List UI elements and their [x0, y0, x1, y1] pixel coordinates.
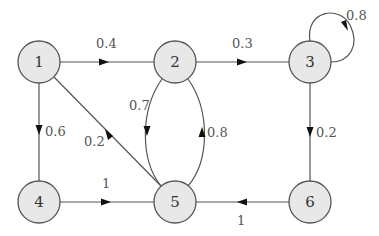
edge-label-3-3: 0.8: [346, 8, 367, 23]
graph-diagram: 0.4 0.3 0.8 0.6 0.2 0.7 0.8 0.2 1 1 1 2 …: [0, 0, 379, 236]
node-2: 2: [154, 41, 196, 83]
edge-label-2-5: 0.7: [129, 98, 150, 113]
edge-label-1-2: 0.4: [96, 36, 117, 51]
node-4-label: 4: [34, 193, 44, 211]
node-3: 3: [289, 41, 331, 83]
arrow-3-6-icon: [307, 127, 314, 137]
arrow-2-3-icon: [237, 59, 247, 66]
arrow-2-5-icon: [144, 126, 151, 136]
edge-label-1-4: 0.6: [45, 124, 66, 139]
arrow-4-5-icon: [101, 199, 111, 206]
arrow-1-2-icon: [99, 59, 109, 66]
edge-label-5-1: 0.2: [84, 134, 105, 149]
edge-label-2-3: 0.3: [232, 36, 253, 51]
node-1: 1: [18, 41, 60, 83]
node-6: 6: [289, 181, 331, 223]
arrow-1-4-icon: [36, 125, 43, 135]
node-1-label: 1: [34, 53, 44, 71]
node-4: 4: [18, 181, 60, 223]
arrow-5-1-icon: [105, 129, 113, 140]
arrow-6-5-icon: [237, 199, 247, 206]
node-5: 5: [154, 181, 196, 223]
node-3-label: 3: [305, 53, 315, 71]
node-5-label: 5: [170, 193, 180, 211]
edge-label-4-5: 1: [102, 176, 110, 191]
node-6-label: 6: [305, 193, 315, 211]
node-2-label: 2: [170, 53, 180, 71]
edge-label-6-5: 1: [237, 213, 245, 228]
edge-label-5-2: 0.8: [207, 125, 228, 140]
edge-label-3-6: 0.2: [316, 125, 337, 140]
